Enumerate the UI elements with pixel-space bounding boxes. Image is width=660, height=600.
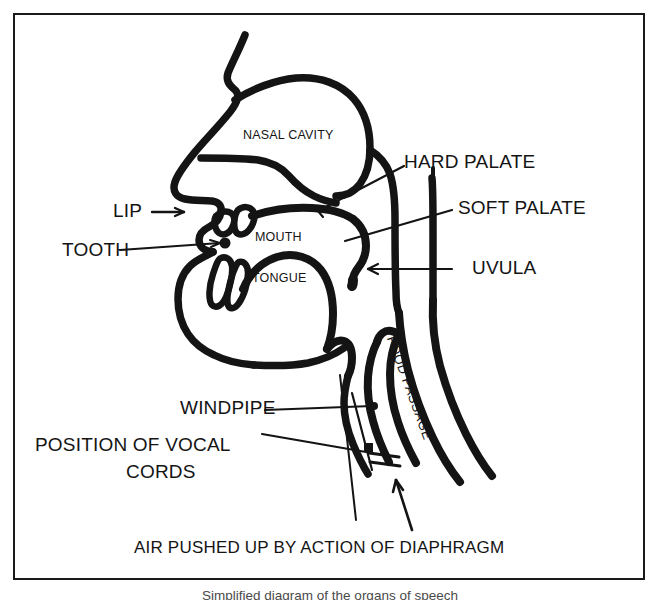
soft-palate-outline <box>353 219 366 280</box>
label-hard-palate: HARD PALATE <box>404 152 535 171</box>
upper-teeth-second-outline <box>234 207 254 234</box>
label-tooth: TOOTH <box>62 240 129 259</box>
tongue-outline <box>243 255 333 349</box>
label-nasal-cavity: NASAL CAVITY <box>243 129 334 142</box>
pharynx-to-esophagus-outline <box>432 178 433 300</box>
label-soft-palate: SOFT PALATE <box>458 198 586 217</box>
label-uvula: UVULA <box>472 258 536 277</box>
figure-caption: Simplified diagram of the organs of spee… <box>0 588 660 600</box>
hard-palate-outline <box>252 208 353 219</box>
nasal-floor-outline <box>201 158 336 203</box>
figure-page: NASAL CAVITY HARD PALATE SOFT PALATE UVU… <box>0 0 660 600</box>
label-mouth: MOUTH <box>255 231 302 244</box>
windpipe-marker-dot <box>370 402 378 410</box>
airflow-arrow <box>393 480 412 530</box>
label-vocal-cords-line1: POSITION OF VOCAL <box>35 435 231 454</box>
label-windpipe: WINDPIPE <box>180 398 276 417</box>
anatomy-diagram <box>0 0 660 600</box>
uvula-outline <box>352 280 353 286</box>
face-profile-outline <box>174 35 245 212</box>
label-lip: LIP <box>113 201 142 220</box>
hard-palate-arrowhead <box>318 210 327 217</box>
label-tongue: TONGUE <box>252 272 306 285</box>
tooth-marker-dot <box>220 238 231 249</box>
label-airflow-caption: AIR PUSHED UP BY ACTION OF DIAPHRAGM <box>134 539 504 556</box>
label-vocal-cords-line2: CORDS <box>126 462 196 481</box>
